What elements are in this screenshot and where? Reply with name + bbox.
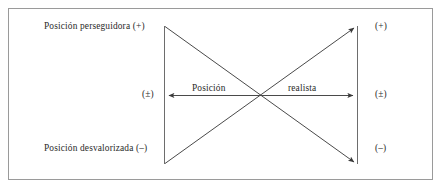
- diagonal-descending-arrow: [165, 27, 354, 163]
- label-right-plus: (+): [375, 20, 387, 32]
- label-right-plusminus: (±): [375, 88, 387, 100]
- axis-word-posicion: Posición: [192, 82, 226, 94]
- label-posicion-desvalorizada: Posición desvalorizada (–): [44, 142, 147, 154]
- axis-word-realista: realista: [288, 82, 316, 94]
- figure-root: Posición perseguidora (+) Posición desva…: [0, 0, 442, 193]
- label-posicion-perseguidora: Posición perseguidora (+): [44, 20, 145, 32]
- label-right-minus: (–): [375, 142, 386, 154]
- label-left-plusminus: (±): [142, 88, 154, 100]
